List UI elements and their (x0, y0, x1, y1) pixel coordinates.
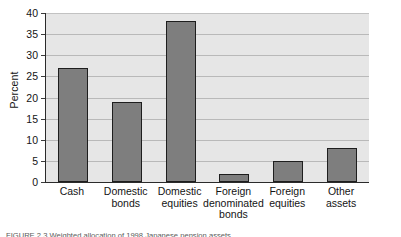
plot-area (45, 13, 369, 183)
y-axis-tick-mark (41, 140, 45, 141)
bar (219, 174, 249, 182)
y-axis-tick-label: 5 (12, 156, 38, 166)
y-axis-tick-mark (41, 119, 45, 120)
y-axis-tick-label: 25 (12, 71, 38, 81)
bar (112, 102, 142, 182)
y-axis-tick-mark (41, 34, 45, 35)
bar (166, 21, 196, 182)
y-axis-tick-labels: 0510152025303540 (12, 13, 38, 182)
y-axis-tick-mark (41, 13, 45, 14)
y-axis-tick-mark (41, 76, 45, 77)
y-axis-tick-label: 40 (12, 8, 38, 18)
y-axis-tick-mark (41, 182, 45, 183)
bar (58, 68, 88, 182)
y-axis-tick-label: 30 (12, 50, 38, 60)
x-axis-label-line: bonds (196, 209, 272, 221)
x-axis-category-labels: CashDomesticbondsDomesticequitiesForeign… (45, 186, 368, 232)
x-axis-label-line: assets (303, 198, 379, 210)
y-axis-tick-mark (41, 98, 45, 99)
bar-series (46, 13, 369, 182)
bar-chart-figure: Percent 0510152025303540 CashDomesticbon… (0, 0, 401, 237)
bar (273, 161, 303, 182)
bar (327, 148, 357, 182)
y-axis-tick-label: 15 (12, 114, 38, 124)
y-axis-tick-label: 10 (12, 135, 38, 145)
y-axis-tick-label: 20 (12, 93, 38, 103)
y-axis-tick-mark (41, 55, 45, 56)
x-axis-label-line: Other (303, 186, 379, 198)
x-axis-category-label: Otherassets (303, 186, 379, 209)
figure-caption: FIGURE 2.3 Weighted allocation of 1998 J… (6, 231, 398, 237)
y-axis-tick-label: 35 (12, 29, 38, 39)
y-axis-tick-mark (41, 161, 45, 162)
